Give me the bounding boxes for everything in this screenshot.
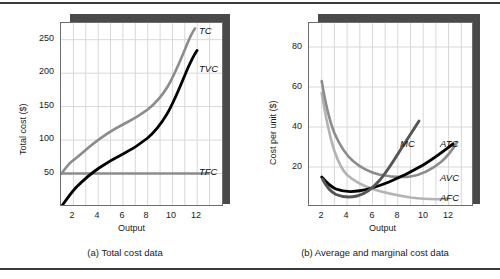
panel-a-xtick-8: 8: [137, 210, 155, 220]
panel-a-xtick-12: 12: [187, 210, 205, 220]
panel-b-y-axis-label: Cost per unit ($): [268, 100, 278, 165]
panel-a-xtick-10: 10: [162, 210, 180, 220]
panel-a-x-axis-label: Output: [118, 223, 145, 233]
panel-a-ytick-250: 250: [24, 33, 54, 43]
panel-b-xtick-6: 6: [363, 210, 381, 220]
panel-a-ytick-50: 50: [24, 167, 54, 177]
panel-b-xtick-2: 2: [312, 210, 330, 220]
curve-atc: [322, 81, 457, 177]
cost-curves-figure: 250 200 150 100 50 Total cost ($) 2 4 6 …: [0, 0, 500, 279]
panel-a-ytick-150: 150: [24, 100, 54, 110]
panel-average-marginal-cost: 80 60 40 20 Cost per unit ($) 2 4 6 8 10…: [250, 0, 500, 279]
panel-a-xtick-2: 2: [63, 210, 81, 220]
curve-label-tvc: TVC: [199, 63, 218, 74]
panel-a-caption: (a) Total cost data: [0, 247, 250, 258]
curve-label-atc: ATC: [440, 138, 458, 149]
panel-b-x-axis-label: Output: [369, 223, 396, 233]
curve-label-afc: AFC: [440, 192, 459, 203]
panel-a-ytick-100: 100: [24, 133, 54, 143]
panel-b-xtick-12: 12: [439, 210, 457, 220]
panel-b-ytick-40: 40: [274, 121, 302, 131]
panel-b-ytick-80: 80: [274, 41, 302, 51]
panel-b-ytick-20: 20: [274, 161, 302, 171]
panel-a-xtick-4: 4: [88, 210, 106, 220]
panel-b-ytick-60: 60: [274, 81, 302, 91]
panel-a-xtick-6: 6: [113, 210, 131, 220]
panel-b-caption: (b) Average and marginal cost data: [250, 247, 500, 258]
panel-total-cost: 250 200 150 100 50 Total cost ($) 2 4 6 …: [0, 0, 250, 279]
panel-b-xtick-10: 10: [414, 210, 432, 220]
curve-label-tfc: TFC: [199, 166, 217, 177]
panel-a-ytick-200: 200: [24, 66, 54, 76]
curve-tvc: [62, 51, 197, 207]
panel-a-y-axis-label: Total cost ($): [18, 103, 28, 155]
panel-a-plot-area: [60, 22, 223, 206]
curve-label-tc: TC: [199, 25, 212, 36]
panel-a-svg: [61, 23, 223, 206]
curve-label-mc: MC: [400, 138, 415, 149]
panel-b-xtick-4: 4: [337, 210, 355, 220]
curve-label-avc: AVC: [440, 172, 459, 183]
panel-b-xtick-8: 8: [388, 210, 406, 220]
